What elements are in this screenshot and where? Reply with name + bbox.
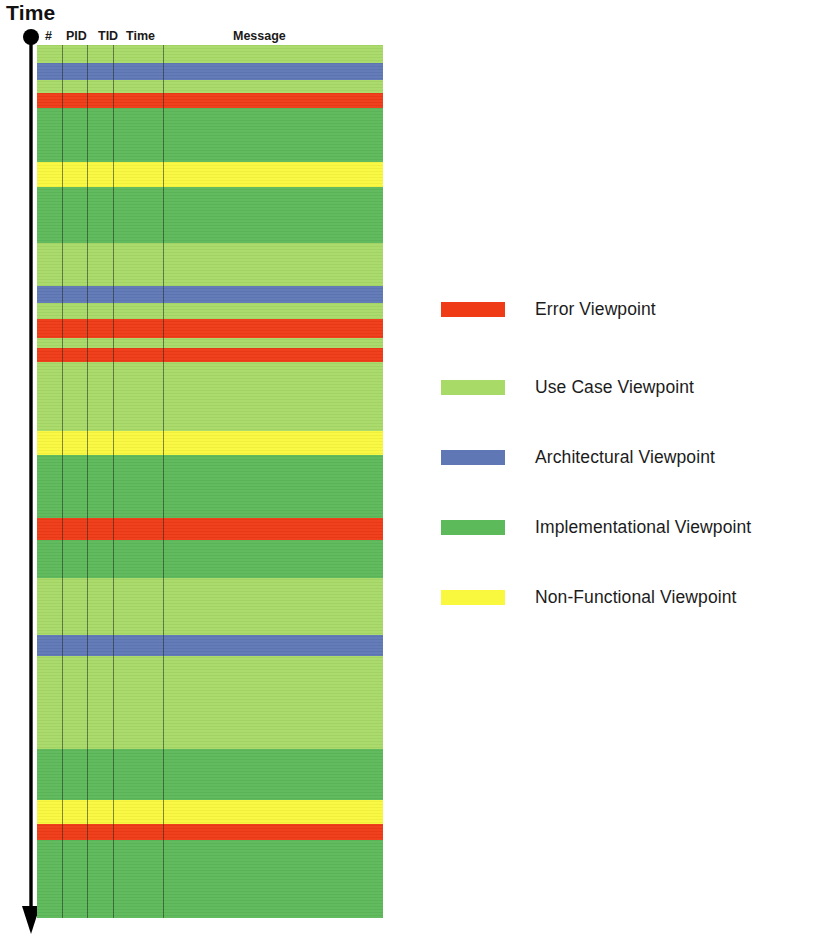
legend-label-architectural: Architectural Viewpoint: [535, 447, 715, 468]
column-header-pid: PID: [66, 28, 87, 44]
log-row[interactable]: [37, 80, 383, 93]
log-row[interactable]: [37, 108, 383, 162]
column-header-num: #: [45, 28, 52, 44]
log-row[interactable]: [37, 431, 383, 455]
log-row[interactable]: [37, 319, 383, 338]
log-row[interactable]: [37, 63, 383, 80]
log-row[interactable]: [37, 518, 383, 540]
log-row[interactable]: [37, 635, 383, 656]
log-row[interactable]: [37, 348, 383, 362]
log-row[interactable]: [37, 824, 383, 840]
legend-item-use_case[interactable]: Use Case Viewpoint: [441, 374, 813, 400]
column-header-message: Message: [233, 28, 286, 44]
log-row[interactable]: [37, 93, 383, 108]
log-row[interactable]: [37, 338, 383, 348]
table-column-headers: # PID TID Time Message: [37, 28, 383, 45]
log-row[interactable]: [37, 45, 383, 63]
log-row[interactable]: [37, 800, 383, 824]
legend-swatch-implementational: [441, 520, 505, 535]
legend-swatch-non_functional: [441, 590, 505, 605]
legend-item-architectural[interactable]: Architectural Viewpoint: [441, 444, 813, 470]
log-row[interactable]: [37, 243, 383, 286]
log-row[interactable]: [37, 303, 383, 319]
legend-label-implementational: Implementational Viewpoint: [535, 517, 751, 538]
legend-swatch-error: [441, 302, 505, 317]
log-row[interactable]: [37, 656, 383, 749]
log-row[interactable]: [37, 540, 383, 578]
legend-swatch-use_case: [441, 380, 505, 395]
legend-item-implementational[interactable]: Implementational Viewpoint: [441, 514, 813, 540]
log-table[interactable]: [37, 45, 383, 918]
log-row[interactable]: [37, 162, 383, 187]
log-row[interactable]: [37, 362, 383, 431]
time-axis-label: Time: [6, 1, 55, 25]
legend-label-use_case: Use Case Viewpoint: [535, 377, 694, 398]
log-row[interactable]: [37, 286, 383, 303]
log-row[interactable]: [37, 578, 383, 635]
legend-item-non_functional[interactable]: Non-Functional Viewpoint: [441, 584, 813, 610]
legend: Error ViewpointUse Case ViewpointArchite…: [441, 296, 813, 622]
column-header-time: Time: [126, 28, 155, 44]
legend-item-error[interactable]: Error Viewpoint: [441, 296, 813, 322]
log-row[interactable]: [37, 455, 383, 518]
legend-label-non_functional: Non-Functional Viewpoint: [535, 587, 737, 608]
log-row[interactable]: [37, 187, 383, 243]
legend-swatch-architectural: [441, 450, 505, 465]
legend-label-error: Error Viewpoint: [535, 299, 656, 320]
column-header-tid: TID: [98, 28, 118, 44]
log-row[interactable]: [37, 840, 383, 918]
log-row[interactable]: [37, 749, 383, 800]
